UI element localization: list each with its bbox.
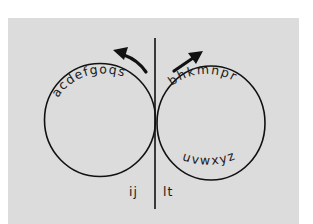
stem-label-right: lt <box>163 184 173 199</box>
left-loop-letters: acdefgoqs <box>48 61 128 99</box>
diagram-drawing: acdefgoqs bhkmnpr uvwxyz ij lt <box>0 0 313 224</box>
letter-formation-diagram: acdefgoqs bhkmnpr uvwxyz ij lt <box>0 0 313 224</box>
right-loop-top-letters: bhkmnpr <box>165 62 241 89</box>
right-loop-bottom-letters: uvwxyz <box>181 147 238 167</box>
stem-label-left: ij <box>129 184 138 199</box>
